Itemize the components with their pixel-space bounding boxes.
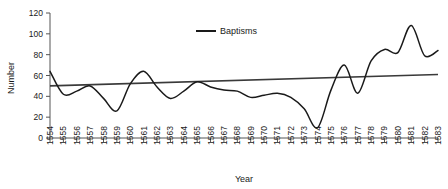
y-axis-tick-label: 40 (34, 91, 44, 101)
y-axis-tick-label: 0 (38, 133, 43, 143)
x-axis-tick-label: 1569 (246, 126, 256, 145)
x-axis-tick-label: 1565 (192, 126, 202, 145)
x-axis-tick-label: 1578 (366, 126, 376, 145)
x-axis-tick-label: 1563 (165, 126, 175, 145)
x-axis-tick-label: 1558 (99, 126, 109, 145)
legend-label-baptisms: Baptisms (220, 26, 258, 36)
y-axis-title: Number (6, 62, 16, 94)
x-axis-tick-label: 1577 (353, 126, 363, 145)
x-axis-tick-label: 1574 (313, 126, 323, 145)
x-axis-tick-label: 1572 (286, 126, 296, 145)
x-axis-tick-label: 1559 (112, 126, 122, 145)
x-axis-tick-label: 1575 (326, 126, 336, 145)
x-axis-tick-label: 1561 (139, 126, 149, 145)
y-axis-tick-label: 60 (34, 71, 44, 81)
y-axis-tick-group: 020406080100120 (29, 8, 50, 143)
x-axis-tick-label: 1571 (272, 126, 282, 145)
trend-line (50, 74, 438, 85)
x-axis-tick-group: 1554155515561557155815591560156115621563… (45, 126, 443, 145)
x-axis-tick-label: 1555 (58, 126, 68, 145)
x-axis-tick-label: 1556 (72, 126, 82, 145)
x-axis-tick-label: 1579 (379, 126, 389, 145)
x-axis-tick-label: 1568 (232, 126, 242, 145)
x-axis-tick-label: 1562 (152, 126, 162, 145)
chart-legend: Baptisms (196, 26, 258, 36)
x-axis-tick-label: 1560 (125, 126, 135, 145)
y-axis-tick-label: 80 (34, 50, 44, 60)
x-axis-tick-label: 1564 (179, 126, 189, 145)
y-axis-tick-label: 100 (29, 29, 43, 39)
x-axis-tick-label: 1570 (259, 126, 269, 145)
x-axis-title: Year (235, 174, 253, 184)
x-axis-tick-label: 1576 (339, 126, 349, 145)
x-axis-tick-label: 1581 (406, 126, 416, 145)
chart-container: 020406080100120 155415551556155715581559… (0, 0, 448, 189)
x-axis-tick-label: 1582 (420, 126, 430, 145)
baptisms-line-chart: 020406080100120 155415551556155715581559… (0, 0, 448, 189)
y-axis-tick-label: 20 (34, 112, 44, 122)
y-axis-tick-label: 120 (29, 8, 43, 18)
x-axis-tick-label: 1557 (85, 126, 95, 145)
x-axis-tick-label: 1580 (393, 126, 403, 145)
x-axis-tick-label: 1583 (433, 126, 443, 145)
x-axis-tick-label: 1573 (299, 126, 309, 145)
x-axis-tick-label: 1566 (206, 126, 216, 145)
x-axis-tick-label: 1567 (219, 126, 229, 145)
